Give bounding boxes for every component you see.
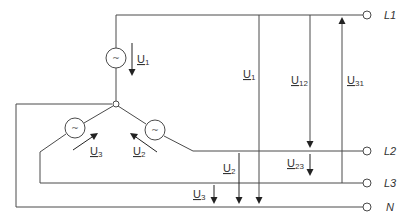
arrowhead-icon	[129, 69, 136, 76]
arrowhead-icon	[307, 141, 314, 148]
label-u1-network: U1	[243, 68, 256, 82]
terminal-label-l3: L3	[384, 177, 397, 189]
arrowhead-icon	[307, 169, 314, 176]
wire-l3	[40, 134, 363, 183]
source-1-symbol: ~	[112, 53, 120, 63]
arrowhead-icon	[90, 133, 98, 140]
arrowhead-icon	[256, 197, 263, 204]
label-u3-network: U3	[193, 188, 206, 202]
terminal-l1[interactable]	[363, 11, 371, 19]
voltage-labels: U1 U3 U2 U1 U2 U3 U12 U23 U31	[90, 53, 364, 202]
source-3-symbol: ~	[71, 123, 79, 133]
arrowhead-icon	[130, 133, 138, 140]
label-u2-source: U2	[133, 145, 146, 159]
wire-l1	[116, 15, 363, 48]
terminal-l3[interactable]	[363, 179, 371, 187]
label-u12: U12	[291, 74, 308, 88]
arrowhead-icon	[236, 197, 243, 204]
wire-l2	[164, 136, 363, 151]
terminal-l2[interactable]	[363, 147, 371, 155]
source-2-symbol: ~	[151, 125, 159, 135]
star-node	[113, 101, 119, 107]
voltage-arrows	[73, 17, 346, 204]
label-u23: U23	[287, 157, 304, 171]
source-3: ~	[65, 118, 85, 138]
terminal-n[interactable]	[363, 203, 371, 211]
terminal-label-n: N	[386, 201, 394, 213]
label-u3-source: U3	[90, 145, 103, 159]
label-u1-source: U1	[137, 53, 150, 67]
label-u31: U31	[347, 74, 364, 88]
source-1: ~	[106, 48, 126, 68]
terminal-label-l2: L2	[384, 145, 396, 157]
wire-node-source3	[84, 106, 113, 123]
label-u2-network: U2	[223, 162, 236, 176]
three-phase-star-circuit: ~ ~ ~ L1 L2 L3 N	[0, 0, 420, 221]
terminal-label-l1: L1	[384, 9, 396, 21]
source-2: ~	[145, 120, 165, 140]
wire-node-source2	[118, 106, 146, 124]
arrowhead-icon	[211, 197, 218, 204]
wire-neutral	[16, 104, 363, 207]
arrowhead-icon	[339, 17, 346, 24]
wires	[16, 15, 363, 207]
